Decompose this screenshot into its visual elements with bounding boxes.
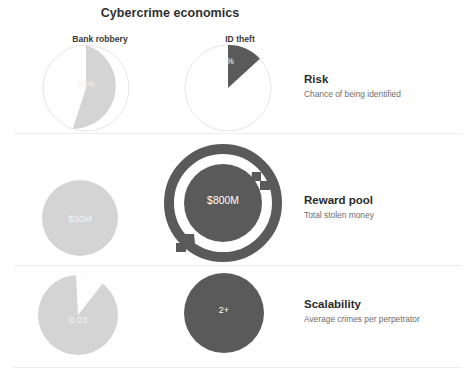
value-label-reward-id-theft: $800M [193, 195, 253, 206]
row-divider-1 [14, 133, 462, 134]
notch-connector-upper-right-icon [251, 172, 270, 190]
caption-reward-pool-title: Reward pool [304, 193, 472, 207]
value-label-reward-bank-robbery: $30M [52, 213, 108, 224]
caption-reward-pool: Reward pool Total stolen money [304, 193, 472, 221]
column-header-bank-robbery: Bank robbery [20, 34, 180, 44]
page-title: Cybercrime economics [0, 6, 340, 20]
caption-scalability-subtitle: Average crimes per perpetrator [304, 313, 472, 325]
caption-risk: Risk Chance of being identified [304, 72, 472, 100]
value-label-risk-bank-robbery: 55% [63, 79, 109, 89]
caption-risk-title: Risk [304, 72, 472, 86]
row-divider-2 [14, 265, 462, 266]
pie-risk-id-theft-slice [228, 45, 260, 88]
value-label-risk-id-theft: 5% [205, 56, 251, 66]
caption-risk-subtitle: Chance of being identified [304, 88, 472, 100]
pie-scalability-bank-robbery-gap [76, 275, 103, 315]
value-label-scalability-id-theft: 2+ [202, 305, 246, 315]
notch-connector-lower-left-icon [176, 234, 195, 252]
column-header-id-theft: ID theft [160, 34, 320, 44]
row-divider-3 [14, 367, 462, 368]
value-label-scalability-bank-robbery: 0.03 [50, 314, 106, 325]
caption-reward-pool-subtitle: Total stolen money [304, 209, 472, 221]
caption-scalability-title: Scalability [304, 297, 472, 311]
infographic-canvas: Cybercrime economics Bank robbery ID the… [0, 0, 472, 376]
caption-scalability: Scalability Average crimes per perpetrat… [304, 297, 472, 325]
